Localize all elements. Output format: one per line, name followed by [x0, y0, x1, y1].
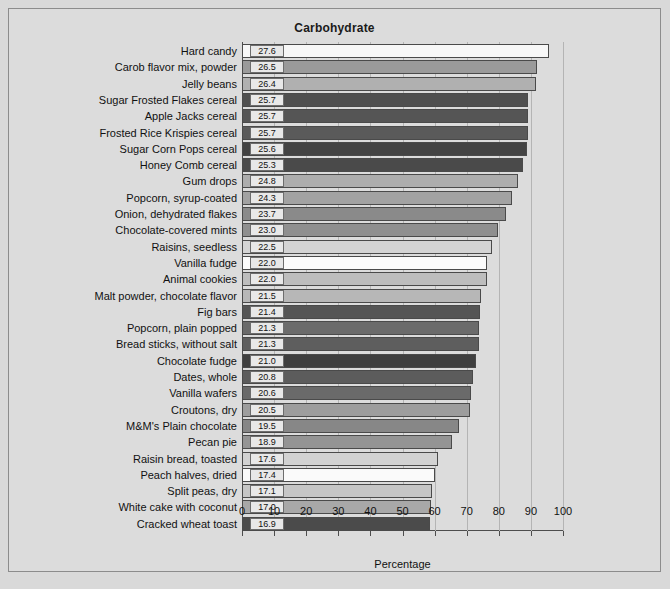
bar — [242, 158, 523, 172]
category-label: Fig bars — [9, 305, 237, 319]
category-label: Bread sticks, without salt — [9, 337, 237, 351]
category-label: Raisin bread, toasted — [9, 452, 237, 466]
bar-value-label: 16.9 — [250, 518, 284, 530]
bar — [242, 77, 536, 91]
bar-row: 20.6 — [242, 386, 563, 400]
category-label: Animal cookies — [9, 272, 237, 286]
bar-row: 25.7 — [242, 93, 563, 107]
bar-row: 21.0 — [242, 354, 563, 368]
bar-row: 23.7 — [242, 207, 563, 221]
bar-value-label: 25.7 — [250, 94, 284, 106]
bar-row: 19.5 — [242, 419, 563, 433]
bar-value-label: 25.6 — [250, 143, 284, 155]
category-label: Gum drops — [9, 174, 237, 188]
x-tick-label-100: 100 — [543, 505, 583, 517]
bar — [242, 60, 537, 74]
x-tick-0 — [242, 531, 243, 536]
bar-value-label: 24.8 — [250, 175, 284, 187]
bar-value-label: 21.3 — [250, 338, 284, 350]
bar-value-label: 22.5 — [250, 241, 284, 253]
bar-value-label: 25.3 — [250, 159, 284, 171]
category-label: Croutons, dry — [9, 403, 237, 417]
bar-value-label: 20.8 — [250, 371, 284, 383]
bar-value-label: 22.0 — [250, 273, 284, 285]
category-label: Malt powder, chocolate flavor — [9, 289, 237, 303]
category-label: Frosted Rice Krispies cereal — [9, 126, 237, 140]
category-label: Cracked wheat toast — [9, 517, 237, 531]
bar-row: 22.0 — [242, 272, 563, 286]
category-label: Sugar Corn Pops cereal — [9, 142, 237, 156]
bar-row: 25.3 — [242, 158, 563, 172]
bar — [242, 44, 549, 58]
bar-value-label: 21.3 — [250, 322, 284, 334]
bar-value-label: 19.5 — [250, 420, 284, 432]
bar-row: 22.0 — [242, 256, 563, 270]
bar-value-label: 17.1 — [250, 485, 284, 497]
bar-value-label: 25.7 — [250, 110, 284, 122]
bar-value-label: 17.4 — [250, 469, 284, 481]
x-tick-20 — [306, 531, 307, 536]
category-label: Apple Jacks cereal — [9, 109, 237, 123]
category-label: Split peas, dry — [9, 484, 237, 498]
bar-value-label: 26.4 — [250, 78, 284, 90]
bar-value-label: 22.0 — [250, 257, 284, 269]
x-tick-90 — [531, 531, 532, 536]
bar-value-label: 27.6 — [250, 45, 284, 57]
category-label: Carob flavor mix, powder — [9, 60, 237, 74]
bar-row: 24.8 — [242, 174, 563, 188]
category-label: Hard candy — [9, 44, 237, 58]
category-label: Pecan pie — [9, 435, 237, 449]
category-label: M&M's Plain chocolate — [9, 419, 237, 433]
x-tick-60 — [435, 531, 436, 536]
x-tick-70 — [467, 531, 468, 536]
x-tick-50 — [403, 531, 404, 536]
bar-row: 26.5 — [242, 60, 563, 74]
category-label: White cake with coconut — [9, 500, 237, 514]
category-label: Popcorn, plain popped — [9, 321, 237, 335]
bar-value-label: 17.6 — [250, 453, 284, 465]
bar-row: 26.4 — [242, 77, 563, 91]
x-tick-30 — [338, 531, 339, 536]
category-label: Jelly beans — [9, 77, 237, 91]
bar-value-label: 21.0 — [250, 355, 284, 367]
bar-row: 20.8 — [242, 370, 563, 384]
category-label: Raisins, seedless — [9, 240, 237, 254]
bar-row: 23.0 — [242, 223, 563, 237]
bar-value-label: 20.6 — [250, 387, 284, 399]
category-label: Vanilla wafers — [9, 386, 237, 400]
category-label: Onion, dehydrated flakes — [9, 207, 237, 221]
x-tick-40 — [370, 531, 371, 536]
bar — [242, 142, 527, 156]
bar-row: 17.4 — [242, 468, 563, 482]
bar — [242, 93, 528, 107]
bar-row: 21.5 — [242, 289, 563, 303]
bar-row: 27.6 — [242, 44, 563, 58]
bar-row: 20.5 — [242, 403, 563, 417]
category-label: Sugar Frosted Flakes cereal — [9, 93, 237, 107]
bar-row: 21.3 — [242, 321, 563, 335]
chart-title: Carbohydrate — [9, 21, 660, 35]
bar-value-label: 21.5 — [250, 290, 284, 302]
bar-value-label: 23.7 — [250, 208, 284, 220]
category-label: Dates, whole — [9, 370, 237, 384]
plot-area: 27.626.526.425.725.725.725.625.324.824.3… — [242, 42, 563, 531]
bar-value-label: 23.0 — [250, 224, 284, 236]
bar-value-label: 25.7 — [250, 127, 284, 139]
bar-row: 22.5 — [242, 240, 563, 254]
bar-value-label: 24.3 — [250, 192, 284, 204]
bar-row: 25.6 — [242, 142, 563, 156]
category-label: Vanilla fudge — [9, 256, 237, 270]
bar-row: 25.7 — [242, 109, 563, 123]
bar — [242, 109, 528, 123]
bar-value-label: 21.4 — [250, 306, 284, 318]
bar-row: 25.7 — [242, 126, 563, 140]
category-label: Popcorn, syrup-coated — [9, 191, 237, 205]
bar-row: 17.1 — [242, 484, 563, 498]
bar-row: 16.9 — [242, 517, 563, 531]
bar-value-label: 20.5 — [250, 404, 284, 416]
x-axis-label: Percentage — [242, 558, 563, 570]
chart-frame: Carbohydrate 27.626.526.425.725.725.725.… — [8, 8, 661, 572]
bar-row: 18.9 — [242, 435, 563, 449]
category-label: Peach halves, dried — [9, 468, 237, 482]
x-tick-80 — [499, 531, 500, 536]
